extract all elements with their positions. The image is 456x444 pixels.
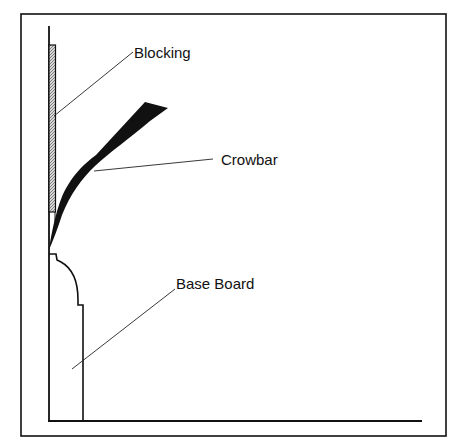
frame-border [21, 14, 446, 436]
crowbar-baseboard-diagram: Blocking Crowbar Base Board [0, 0, 456, 444]
blocking-label: Blocking [134, 44, 191, 61]
base-board-profile [49, 254, 83, 421]
crowbar-shape [49, 102, 168, 250]
blocking-strip [49, 45, 56, 212]
crowbar-label: Crowbar [221, 151, 278, 168]
base-board-leader-line [72, 289, 175, 369]
base-board-label: Base Board [176, 275, 254, 292]
blocking-leader-line [54, 52, 133, 116]
crowbar-leader-line [94, 159, 213, 171]
